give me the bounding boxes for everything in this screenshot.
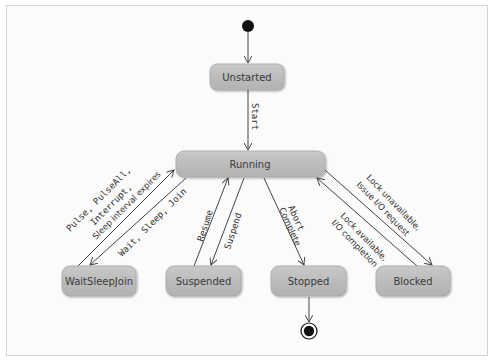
state-suspended-label: Suspended: [176, 276, 232, 287]
transition-pulse-label-3: Sleep interval expires: [90, 169, 163, 242]
state-blocked-label: Blocked: [393, 276, 432, 287]
state-waitsleepjoin-label: WaitSleepJoin: [65, 276, 133, 287]
transition-resume-label: Resume: [195, 209, 215, 243]
state-unstarted-label: Unstarted: [222, 72, 271, 83]
initial-state-icon: [242, 20, 254, 32]
state-stopped[interactable]: Stopped: [271, 266, 346, 296]
state-unstarted[interactable]: Unstarted: [210, 64, 284, 90]
final-state-icon: [301, 323, 317, 339]
transition-suspend-label: Suspend: [222, 211, 243, 250]
state-running-label: Running: [230, 159, 271, 170]
state-diagram: Unstarted Start Running Pulse, PulseAll,…: [0, 0, 497, 363]
state-stopped-label: Stopped: [288, 276, 330, 287]
state-blocked[interactable]: Blocked: [376, 266, 450, 296]
state-suspended[interactable]: Suspended: [166, 266, 241, 296]
state-running[interactable]: Running: [176, 151, 325, 177]
transition-start-label: Start: [250, 103, 260, 130]
state-waitsleepjoin[interactable]: WaitSleepJoin: [62, 266, 136, 296]
